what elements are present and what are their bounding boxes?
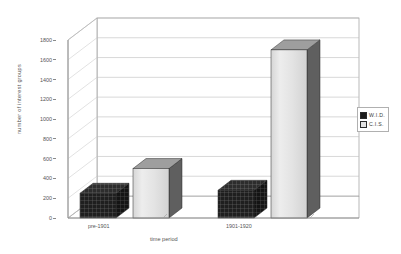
legend-label-cis: C.I.S. (369, 121, 384, 127)
bar-wid-0 (80, 183, 129, 218)
legend-swatch-wid (360, 112, 367, 119)
chart-container: number of interest groups 02004006008001… (0, 0, 401, 254)
legend-label-wid: W.I.D. (369, 112, 385, 118)
x-axis-title: time period (150, 236, 178, 242)
legend-swatch-cis (360, 121, 367, 128)
x-axis-label-pre-1901: pre-1901 (88, 223, 110, 229)
bar-cis-0 (133, 159, 182, 218)
chart-legend: W.I.D. C.I.S. (357, 107, 389, 132)
legend-item-cis: C.I.S. (360, 120, 385, 128)
x-axis-label-1901-1920: 1901-1920 (226, 223, 252, 229)
legend-item-wid: W.I.D. (360, 111, 385, 119)
bar-wid-1 (218, 180, 267, 218)
bar-cis-1 (271, 40, 320, 218)
chart-plot-area (0, 0, 401, 254)
